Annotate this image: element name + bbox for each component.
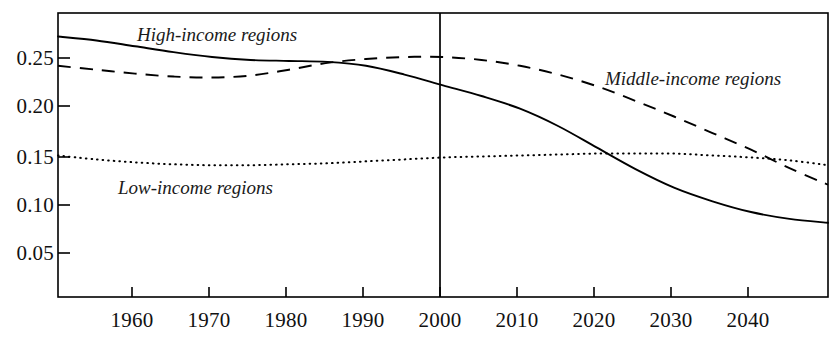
- y-axis-label-015: 0.15: [2, 145, 54, 170]
- series-annotation-high-income: High-income regions: [137, 24, 297, 46]
- x-axis-label-2040: 2040: [698, 308, 798, 333]
- y-axis-label-025: 0.25: [2, 46, 54, 71]
- y-axis-label-010: 0.10: [2, 193, 54, 218]
- series-annotation-low-income: Low-income regions: [118, 177, 273, 199]
- y-axis-label-005: 0.05: [2, 241, 54, 266]
- chart-figure: 0.25 0.20 0.15 0.10 0.05 1960 1970 1980 …: [0, 0, 838, 345]
- series-annotation-middle-income: Middle-income regions: [605, 68, 781, 90]
- y-axis-label-020: 0.20: [2, 94, 54, 119]
- chart-plot-area: [0, 0, 838, 345]
- series-line-low-income: [58, 153, 828, 165]
